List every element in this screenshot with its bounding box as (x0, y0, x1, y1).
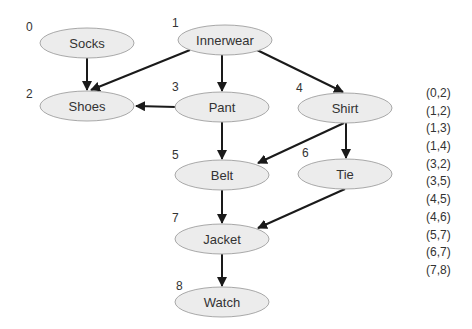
edge-list-item: (1,3) (426, 120, 466, 138)
svg-text:3: 3 (172, 80, 179, 94)
edge-list-item: (1,4) (426, 138, 466, 156)
svg-text:8: 8 (176, 279, 183, 293)
node-belt: Belt 5 (172, 148, 269, 190)
svg-text:Watch: Watch (204, 295, 240, 310)
svg-text:Socks: Socks (69, 36, 105, 51)
svg-text:6: 6 (302, 146, 309, 160)
edge-list-item: (4,6) (426, 209, 466, 227)
edge-list-item: (3,5) (426, 173, 466, 191)
svg-text:Innerwear: Innerwear (196, 33, 254, 48)
edge-4-5 (258, 123, 344, 163)
svg-text:Tie: Tie (336, 167, 354, 182)
node-socks: Socks 0 (26, 20, 134, 58)
svg-text:2: 2 (26, 87, 33, 101)
svg-text:Shirt: Shirt (332, 101, 359, 116)
edge-list-item: (0,2) (426, 85, 466, 103)
edge-list-item: (5,7) (426, 227, 466, 245)
edge-list-item: (3,2) (426, 156, 466, 174)
svg-text:Belt: Belt (211, 168, 234, 183)
node-innerwear: Innerwear 1 (172, 16, 272, 55)
svg-text:1: 1 (172, 16, 179, 30)
svg-text:Shoes: Shoes (69, 99, 106, 114)
svg-text:4: 4 (296, 81, 303, 95)
dependency-graph: Socks 0 Innerwear 1 Shoes 2 Pant 3 Shirt… (0, 0, 472, 329)
svg-text:Jacket: Jacket (203, 232, 241, 247)
svg-text:5: 5 (172, 148, 179, 162)
node-shoes: Shoes 2 (26, 87, 134, 121)
edge-list-item: (1,2) (426, 103, 466, 121)
edge-3-2 (136, 106, 176, 107)
node-pant: Pant 3 (172, 80, 269, 122)
svg-text:Pant: Pant (209, 100, 236, 115)
edge-6-7 (258, 189, 345, 228)
edge-list: (0,2) (1,2) (1,3) (1,4) (3,2) (3,5) (4,5… (426, 85, 466, 280)
edge-list-item: (6,7) (426, 244, 466, 262)
node-jacket: Jacket 7 (172, 211, 269, 254)
svg-text:0: 0 (26, 20, 33, 34)
node-shirt: Shirt 4 (296, 81, 392, 123)
edge-list-item: (4,5) (426, 191, 466, 209)
edge-list-item: (7,8) (426, 262, 466, 280)
svg-text:7: 7 (172, 211, 179, 225)
